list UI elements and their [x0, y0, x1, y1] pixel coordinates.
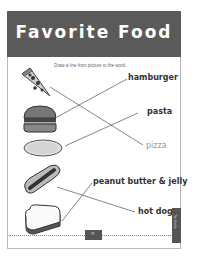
line-pbj — [62, 183, 92, 221]
line-pasta — [65, 113, 138, 146]
word-pizza[interactable]: pizza — [146, 141, 167, 150]
word-peanut-butter-jelly[interactable]: peanut butter & jelly — [93, 177, 187, 186]
side-tab: Tar Heels — [172, 208, 181, 243]
line-hot-dog — [57, 187, 135, 212]
word-hot-dog[interactable]: hot dog — [138, 207, 173, 216]
word-pasta[interactable]: pasta — [147, 107, 172, 116]
match-lines — [0, 0, 197, 265]
word-hamburger[interactable]: hamburger — [128, 73, 178, 82]
page-number-tab: pg — [85, 230, 102, 240]
